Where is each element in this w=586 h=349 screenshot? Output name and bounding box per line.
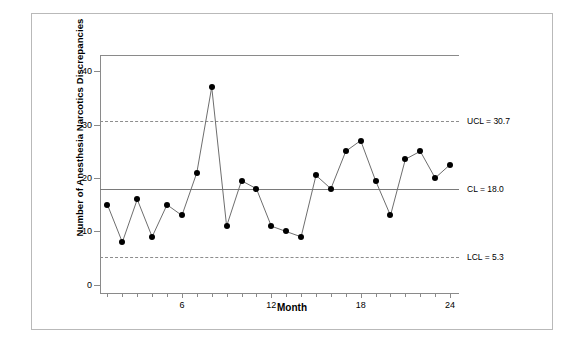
- data-point: [209, 84, 215, 90]
- x-tick-label: 18: [356, 300, 366, 310]
- y-tick-label: 10: [72, 226, 92, 236]
- x-tick: [137, 293, 138, 297]
- data-point: [149, 234, 155, 240]
- x-tick: [271, 293, 272, 298]
- data-point: [253, 186, 259, 192]
- plot-area: 010203040 6121824 UCL = 30.7CL = 18.0LCL…: [100, 55, 459, 293]
- data-point: [402, 156, 408, 162]
- data-point: [387, 212, 393, 218]
- lcl-label: LCL = 5.3: [467, 252, 504, 262]
- data-point: [298, 234, 304, 240]
- x-tick: [256, 293, 257, 297]
- x-tick: [167, 293, 168, 297]
- x-tick: [286, 293, 287, 297]
- series-markers: [100, 55, 459, 293]
- x-tick: [182, 293, 183, 298]
- x-tick: [227, 293, 228, 297]
- y-tick-label: 20: [72, 173, 92, 183]
- x-tick: [361, 293, 362, 298]
- x-tick: [152, 293, 153, 297]
- data-point: [134, 196, 140, 202]
- x-tick-label: 12: [266, 300, 276, 310]
- data-point: [104, 202, 110, 208]
- data-point: [194, 170, 200, 176]
- x-tick: [450, 293, 451, 298]
- y-tick-label: 40: [72, 66, 92, 76]
- ucl-label: UCL = 30.7: [467, 116, 510, 126]
- data-point: [179, 212, 185, 218]
- x-tick: [122, 293, 123, 297]
- x-tick: [435, 293, 436, 297]
- data-point: [358, 138, 364, 144]
- data-point: [164, 202, 170, 208]
- x-tick: [242, 293, 243, 297]
- x-tick: [376, 293, 377, 297]
- cl-label: CL = 18.0: [467, 184, 504, 194]
- x-tick: [212, 293, 213, 297]
- data-point: [343, 148, 349, 154]
- data-point: [268, 223, 274, 229]
- data-point: [328, 186, 334, 192]
- x-tick: [405, 293, 406, 297]
- x-tick: [197, 293, 198, 297]
- x-tick: [420, 293, 421, 297]
- x-tick: [390, 293, 391, 297]
- x-axis-title: Month: [32, 302, 552, 313]
- data-point: [313, 172, 319, 178]
- chart-figure: Number of Anesthesia Narcotics Discrepan…: [31, 13, 553, 330]
- y-tick-label: 0: [72, 280, 92, 290]
- data-point: [432, 175, 438, 181]
- x-tick: [316, 293, 317, 297]
- x-tick: [301, 293, 302, 297]
- x-tick: [107, 293, 108, 297]
- data-point: [417, 148, 423, 154]
- y-tick-label: 30: [72, 120, 92, 130]
- data-point: [447, 162, 453, 168]
- data-point: [119, 239, 125, 245]
- x-tick-label: 24: [445, 300, 455, 310]
- data-point: [239, 178, 245, 184]
- x-tick: [346, 293, 347, 297]
- x-tick: [331, 293, 332, 297]
- data-point: [373, 178, 379, 184]
- x-tick-label: 6: [179, 300, 184, 310]
- data-point: [224, 223, 230, 229]
- data-point: [283, 228, 289, 234]
